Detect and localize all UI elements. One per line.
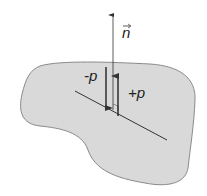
body-region: [21, 62, 195, 185]
minus-p-label: -p: [84, 67, 97, 84]
plus-p-label: +p: [128, 84, 145, 101]
pressure-diagram: n -p +p: [0, 0, 207, 196]
normal-label: n: [122, 24, 130, 41]
diagram-canvas: n -p +p: [0, 0, 207, 196]
